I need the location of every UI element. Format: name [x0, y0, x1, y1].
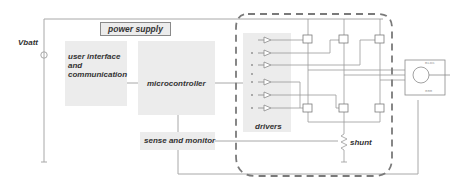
ui-label-line3: communication — [68, 70, 127, 79]
microcontroller-label: microcontroller — [147, 79, 206, 88]
sense-monitor-block: sense and monitor — [140, 132, 215, 150]
user-interface-block: user interface and communication — [65, 41, 127, 106]
motor-label: BLDC — [425, 61, 435, 65]
sense-monitor-label: sense and monitor — [144, 136, 215, 145]
ui-label-line1: user interface — [68, 52, 120, 61]
vbatt-label: Vbatt — [18, 38, 38, 47]
motor-pins: 000 — [425, 89, 432, 93]
shunt-label: shunt — [350, 138, 372, 147]
drivers-label: drivers — [255, 122, 282, 131]
ui-label-line2: and — [68, 61, 82, 70]
microcontroller-block: microcontroller — [138, 41, 215, 115]
power-supply-block: power supply — [100, 22, 171, 36]
